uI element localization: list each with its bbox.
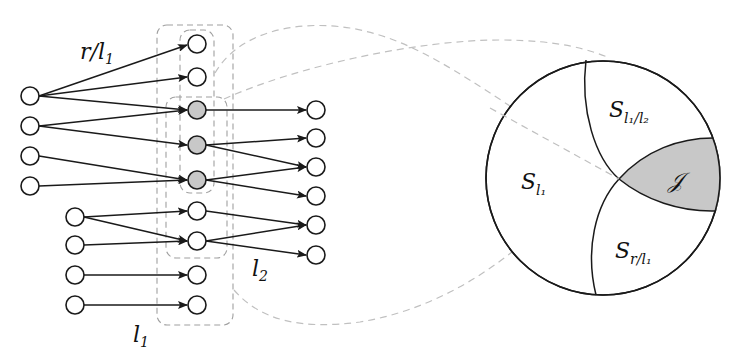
node: [21, 177, 39, 195]
node: [188, 266, 206, 284]
node: [307, 216, 325, 234]
node: [21, 87, 39, 105]
node: [188, 202, 206, 220]
right-column-nodes: [307, 101, 325, 264]
node-shaded: [188, 136, 206, 154]
diagram-canvas: r/l1 l1 l2 Sl₁ Sl₁/l₂ Sr/l₁ 𝒥: [0, 0, 734, 355]
left-column-b-nodes: [66, 208, 84, 314]
connector-lower: [234, 252, 512, 325]
node: [307, 101, 325, 119]
node: [188, 296, 206, 314]
middle-column-nodes: [188, 35, 206, 314]
node: [307, 246, 325, 264]
node: [307, 158, 325, 176]
edges-left-to-middle: [39, 45, 187, 305]
node: [188, 68, 206, 86]
node: [66, 266, 84, 284]
node: [66, 208, 84, 226]
label-l2: l2: [252, 256, 268, 284]
node: [188, 232, 206, 250]
left-column-a-nodes: [21, 87, 39, 195]
node: [21, 147, 39, 165]
node: [66, 236, 84, 254]
node: [307, 129, 325, 147]
label-l1: l1: [133, 322, 149, 350]
node-shaded: [188, 171, 206, 189]
edges-middle-to-right: [206, 110, 306, 255]
node: [188, 35, 206, 53]
node: [21, 117, 39, 135]
node: [307, 187, 325, 205]
node-shaded: [188, 101, 206, 119]
label-r-over-l1: r/l1: [80, 39, 114, 67]
node: [66, 296, 84, 314]
